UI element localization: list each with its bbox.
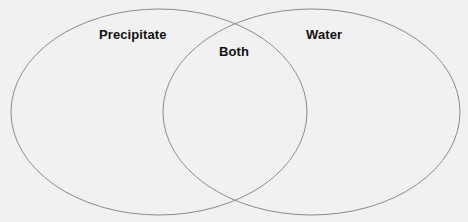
intersection-label: Both xyxy=(219,44,249,59)
right-set-label: Water xyxy=(306,27,342,42)
venn-outlines xyxy=(0,0,468,222)
left-set-label: Precipitate xyxy=(99,27,167,42)
venn-diagram: Precipitate Both Water xyxy=(0,0,468,222)
